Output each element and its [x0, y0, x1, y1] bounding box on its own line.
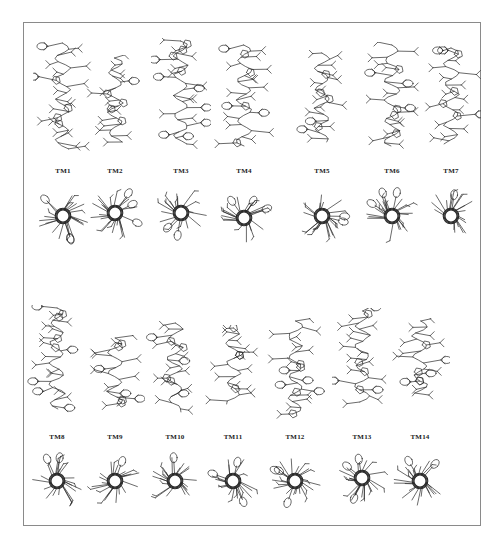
- helix-label: TM1: [55, 167, 70, 175]
- helix-label: TM11: [224, 433, 243, 441]
- helix-side-view: [421, 45, 481, 150]
- helix-side-view: [362, 42, 422, 152]
- helix-side-view: [203, 325, 263, 410]
- helix-label: TM7: [443, 167, 458, 175]
- helix-label: TM3: [173, 167, 188, 175]
- helix-label: TM6: [384, 167, 399, 175]
- helix-side-view: [27, 305, 87, 415]
- helix-label: TM5: [314, 167, 329, 175]
- helix-top-view: [202, 450, 264, 512]
- helix-side-view: [214, 42, 274, 152]
- helix-top-view: [361, 185, 423, 247]
- helix-label: TM8: [49, 433, 64, 441]
- helix-side-view: [332, 308, 392, 408]
- helix-label: TM14: [410, 433, 429, 441]
- helix-side-view: [85, 335, 145, 412]
- helix-top-view: [84, 450, 146, 512]
- helix-top-view: [389, 450, 451, 512]
- helix-label: TM13: [352, 433, 371, 441]
- helix-label: TM2: [107, 167, 122, 175]
- helix-top-view: [84, 182, 146, 244]
- helix-side-view: [145, 320, 205, 418]
- helix-side-view: [33, 40, 93, 155]
- helix-top-view: [291, 185, 353, 247]
- helix-top-view: [264, 450, 326, 512]
- helix-top-view: [420, 185, 482, 247]
- helix-label: TM10: [165, 433, 184, 441]
- helix-side-view: [265, 318, 325, 420]
- helix-side-view: [151, 38, 211, 150]
- helix-top-view: [331, 447, 393, 509]
- helix-side-view: [292, 50, 352, 148]
- helix-top-view: [150, 182, 212, 244]
- helix-side-view: [390, 318, 450, 402]
- helix-top-view: [213, 187, 275, 249]
- helix-top-view: [144, 450, 206, 512]
- helix-top-view: [26, 450, 88, 512]
- helix-label: TM12: [285, 433, 304, 441]
- helix-side-view: [85, 55, 145, 148]
- helix-label: TM9: [107, 433, 122, 441]
- helix-label: TM4: [236, 167, 251, 175]
